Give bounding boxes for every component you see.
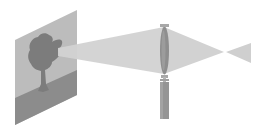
- converging-beam: [164, 27, 224, 74]
- lens-top-cap: [160, 24, 169, 27]
- diverging-beam: [226, 43, 251, 63]
- lens-diagram: Lens projection: object screen with tree…: [0, 0, 264, 132]
- lens-stand: [160, 75, 169, 119]
